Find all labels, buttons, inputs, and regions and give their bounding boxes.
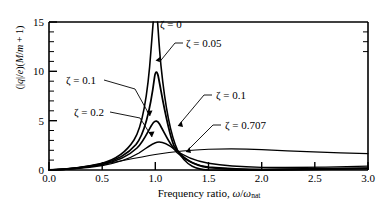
y-tick-label: 5 (39, 115, 45, 127)
y-tick-labels: 0 5 10 15 (33, 16, 45, 176)
leader-zeta-0707-right (186, 125, 221, 152)
y-tick-label: 10 (33, 65, 45, 77)
y-tick-label: 15 (33, 16, 45, 28)
arrowhead-zeta-01-right (178, 121, 183, 127)
leader-zeta-005 (160, 43, 184, 62)
annotation-label-zeta-0707: ζ = 0.707 (225, 119, 267, 132)
y-tick-label: 0 (39, 164, 45, 176)
annotation-label-zeta-01-left: ζ = 0.1 (66, 74, 96, 87)
x-tick-labels: 0.0 0.5 1.0 1.5 2.0 2.5 3.0 (42, 172, 375, 184)
leader-zeta-01-right (178, 95, 212, 126)
damped-response-chart: 0.0 0.5 1.0 1.5 2.0 2.5 3.0 0 5 10 15 ζ … (0, 0, 391, 211)
x-tick-label: 0.5 (95, 172, 109, 184)
x-tick-label: 1.5 (202, 172, 216, 184)
x-axis-title: Frequency ratio, ω/ωnat (49, 187, 369, 200)
annotation-label-zeta-0: ζ = 0 (160, 18, 182, 31)
x-tick-label: 3.0 (361, 172, 375, 184)
arrowhead-zeta-02-left (149, 132, 155, 138)
annotation-arrowheads (147, 57, 192, 154)
annotation-label-zeta-005: ζ = 0.05 (186, 37, 222, 50)
curve-zeta-005 (49, 72, 368, 170)
annotation-label-zeta-02-left: ζ = 0.2 (74, 106, 104, 119)
x-tick-label: 2.0 (255, 172, 269, 184)
y-axis-title: (|q|/e)(M/m + 1) (14, 3, 25, 113)
annotation-label-zeta-01-right: ζ = 0.1 (216, 89, 246, 102)
x-tick-label: 2.5 (308, 172, 322, 184)
figure-container: 0.0 0.5 1.0 1.5 2.0 2.5 3.0 0 5 10 15 ζ … (0, 0, 391, 211)
y-major-ticks (49, 22, 57, 170)
x-tick-label: 0.0 (42, 172, 56, 184)
x-tick-label: 1.0 (148, 172, 162, 184)
